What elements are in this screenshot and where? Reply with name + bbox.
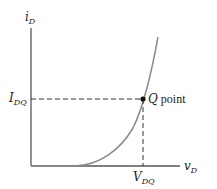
q-point-label: Q point bbox=[148, 92, 186, 106]
vdq-label: VDQ bbox=[133, 170, 155, 186]
x-axis-label: vD bbox=[184, 159, 198, 175]
y-axis-label: iD bbox=[25, 10, 36, 26]
iv-curve bbox=[31, 37, 158, 166]
idq-label: IDQ bbox=[8, 91, 27, 107]
q-point-marker bbox=[140, 96, 145, 101]
diode-iv-diagram: iD vD IDQ VDQ Q point bbox=[0, 0, 217, 189]
